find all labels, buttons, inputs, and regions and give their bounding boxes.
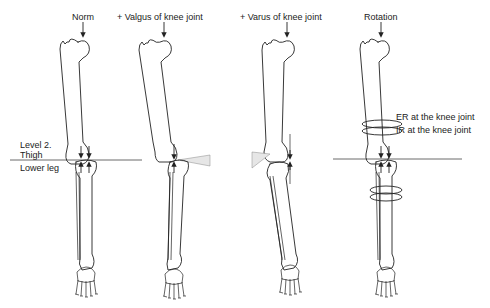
- lower-leg-label: Lower leg: [20, 163, 59, 173]
- panel-title-valgus: + Valgus of knee joint: [117, 12, 203, 22]
- leg-varus: [252, 22, 302, 295]
- leg-alignment-diagram: Norm + Valgus of knee joint + Varus of k…: [0, 0, 490, 308]
- leg-valgus: [139, 22, 210, 299]
- panel-title-rotation: Rotation: [364, 12, 398, 22]
- level-label: Level 2.: [20, 140, 52, 150]
- ir-label: IR at the knee joint: [396, 125, 471, 135]
- panel-title-norm: Norm: [72, 12, 94, 22]
- panel-title-varus: + Varus of knee joint: [240, 12, 322, 22]
- leg-rotation: [360, 22, 402, 297]
- er-label: ER at the knee joint: [396, 112, 475, 122]
- diagram-drawing: [0, 0, 490, 308]
- thigh-label: Thigh: [20, 150, 43, 160]
- leg-norm: [60, 22, 98, 297]
